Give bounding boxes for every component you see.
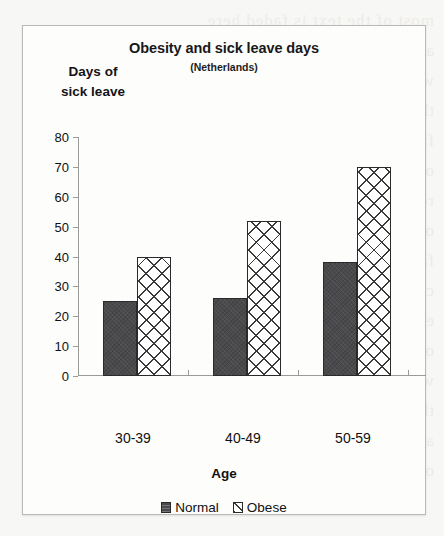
bar-obese-50-59[interactable]: [357, 167, 391, 376]
x-axis-category-tick: [408, 370, 409, 376]
bar-normal-40-49[interactable]: [213, 298, 247, 376]
x-axis-category-tick: [298, 370, 299, 376]
y-axis-tick-label: 30: [55, 279, 69, 294]
y-axis-tick-label: 60: [55, 189, 69, 204]
legend-item-obese[interactable]: Obese: [233, 500, 287, 515]
hatched-square-icon: [233, 502, 243, 513]
y-axis-tick-label: 80: [55, 130, 69, 145]
bar-obese-30-39[interactable]: [137, 257, 171, 377]
y-axis-tick-label: 40: [55, 249, 69, 264]
bar-obese-40-49[interactable]: [247, 221, 281, 376]
y-axis-line: [78, 137, 79, 376]
chart-title: Obesity and sick leave days: [23, 40, 425, 56]
legend-item-normal[interactable]: Normal: [161, 500, 219, 515]
x-axis-category-label: 30-39: [115, 430, 151, 446]
x-axis-category-label: 50-59: [335, 430, 371, 446]
y-axis-tick: [73, 167, 78, 168]
x-axis-category-tick: [188, 370, 189, 376]
y-axis-title-line2: sick leave: [61, 84, 125, 99]
y-axis-tick-label: 0: [62, 369, 69, 384]
y-axis-tick: [73, 227, 78, 228]
y-axis-tick: [73, 197, 78, 198]
y-axis-tick: [73, 346, 78, 347]
y-axis-tick-label: 20: [55, 309, 69, 324]
chart-legend: NormalObese: [23, 500, 425, 515]
x-axis-category-label: 40-49: [225, 430, 261, 446]
legend-item-label: Obese: [247, 500, 287, 515]
x-axis-title: Age: [23, 466, 425, 481]
y-axis-tick: [73, 286, 78, 287]
y-axis-tick: [73, 137, 78, 138]
plot-area: 80706050403020100: [78, 137, 408, 376]
solid-dark-square-icon: [161, 502, 171, 513]
y-axis-tick-label: 70: [55, 159, 69, 174]
bar-normal-50-59[interactable]: [323, 262, 357, 376]
y-axis-tick: [73, 316, 78, 317]
y-axis-tick: [73, 257, 78, 258]
bar-normal-30-39[interactable]: [103, 301, 137, 376]
y-axis-title-line1: Days of: [69, 64, 118, 79]
bar-group: [323, 137, 391, 376]
y-axis-tick: [73, 376, 78, 377]
y-axis-tick-label: 10: [55, 339, 69, 354]
bar-group: [213, 137, 281, 376]
y-axis-title: Days of sick leave: [33, 62, 153, 102]
bar-group: [103, 137, 171, 376]
legend-item-label: Normal: [175, 500, 219, 515]
y-axis-tick-label: 50: [55, 219, 69, 234]
chart-figure: Obesity and sick leave days (Netherlands…: [22, 25, 426, 515]
